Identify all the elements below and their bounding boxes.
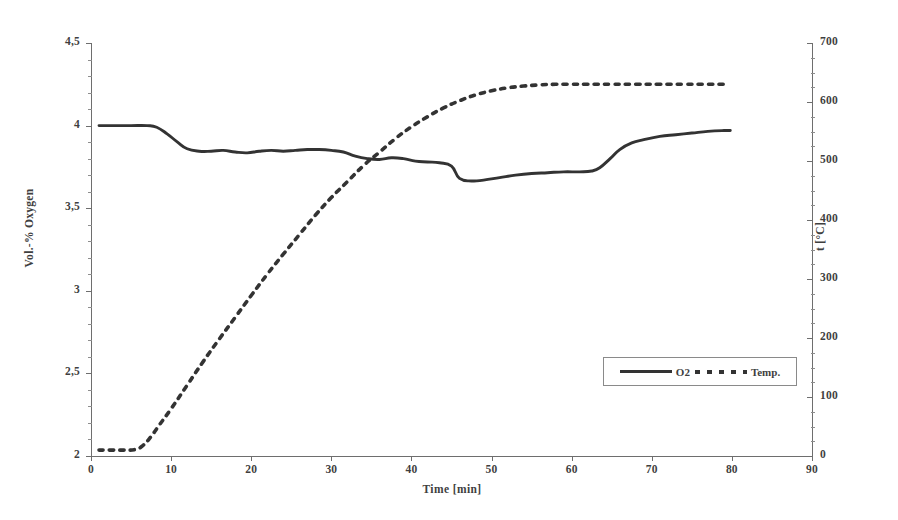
legend-label-temp: Temp. (751, 366, 780, 378)
chart-figure: 22,533,544,50100200300400500600700010203… (0, 0, 898, 520)
dotted-line-swatch-icon (695, 370, 747, 374)
series-line-o2 (99, 125, 730, 181)
legend-label-o2: O2 (676, 366, 690, 378)
plot-area (0, 0, 898, 520)
legend-entry-o2: O2 (620, 366, 690, 378)
legend-entry-temp: Temp. (695, 366, 780, 378)
series-line-temp (99, 84, 728, 450)
solid-line-swatch-icon (620, 370, 672, 373)
chart-legend: O2 Temp. (603, 357, 797, 386)
